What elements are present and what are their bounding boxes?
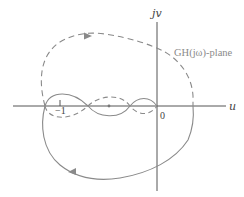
jv-axis-label: jv bbox=[149, 7, 162, 20]
minus-one-label: −1 bbox=[55, 105, 66, 116]
nyquist-diagram: jv u 0 −1 GH(jω)-plane bbox=[0, 0, 244, 197]
center-dot bbox=[108, 105, 111, 108]
origin-label: 0 bbox=[160, 110, 165, 121]
dashed-outer-curve bbox=[41, 33, 193, 106]
plane-label: GH(jω)-plane bbox=[174, 47, 233, 59]
solid-outer-curve bbox=[43, 106, 194, 179]
u-axis-label: u bbox=[229, 100, 236, 113]
arrow-left-icon bbox=[68, 168, 76, 175]
